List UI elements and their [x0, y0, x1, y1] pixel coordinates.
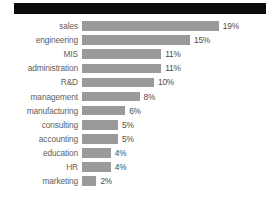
bar [82, 120, 118, 130]
bar [82, 21, 219, 31]
value-label: 4% [111, 148, 127, 158]
bar [82, 176, 96, 186]
value-label: 2% [96, 176, 112, 186]
bar-row: HR4% [0, 160, 274, 174]
bar-row: engineering15% [0, 33, 274, 47]
category-label: MIS [0, 49, 82, 59]
category-label: R&D [0, 77, 82, 87]
bar [82, 134, 118, 144]
bar [82, 49, 161, 59]
bar [82, 106, 125, 116]
bar [82, 162, 111, 172]
bar-track: 11% [82, 61, 274, 75]
bar-chart: sales19%engineering15%MIS11%administrati… [0, 0, 274, 214]
bar-track: 4% [82, 160, 274, 174]
bar-row: sales19% [0, 19, 274, 33]
bar-row: manufacturing6% [0, 104, 274, 118]
bar-row: accounting5% [0, 132, 274, 146]
bar-row: MIS11% [0, 47, 274, 61]
bar [82, 64, 161, 74]
plot-area: sales19%engineering15%MIS11%administrati… [0, 19, 274, 209]
bar-row: marketing2% [0, 174, 274, 188]
category-label: engineering [0, 35, 82, 45]
category-label: administration [0, 63, 82, 73]
bar-track: 19% [82, 19, 274, 33]
bar [82, 148, 111, 158]
bar-row: management8% [0, 89, 274, 103]
bar-track: 2% [82, 174, 274, 188]
bar-row: consulting5% [0, 118, 274, 132]
bar-row: education4% [0, 146, 274, 160]
value-label: 5% [118, 120, 134, 130]
bar-track: 11% [82, 47, 274, 61]
bar [82, 78, 154, 88]
bar [82, 35, 190, 45]
category-label: consulting [0, 120, 82, 130]
bar [82, 92, 140, 102]
bar-track: 5% [82, 132, 274, 146]
value-label: 10% [154, 77, 174, 87]
category-label: management [0, 92, 82, 102]
bar-track: 6% [82, 104, 274, 118]
category-label: manufacturing [0, 106, 82, 116]
redacted-title-bar [14, 3, 266, 14]
bar-track: 5% [82, 118, 274, 132]
category-label: education [0, 148, 82, 158]
value-label: 11% [161, 49, 180, 59]
bar-row: administration11% [0, 61, 274, 75]
bar-track: 8% [82, 89, 274, 103]
value-label: 19% [219, 21, 239, 31]
value-label: 5% [118, 134, 134, 144]
bar-track: 10% [82, 75, 274, 89]
value-label: 6% [125, 106, 141, 116]
value-label: 4% [111, 162, 127, 172]
value-label: 11% [161, 63, 180, 73]
category-label: sales [0, 21, 82, 31]
bar-track: 15% [82, 33, 274, 47]
category-label: HR [0, 162, 82, 172]
bar-row: R&D10% [0, 75, 274, 89]
value-label: 8% [140, 92, 156, 102]
bar-track: 4% [82, 146, 274, 160]
category-label: marketing [0, 176, 82, 186]
value-label: 15% [190, 35, 210, 45]
category-label: accounting [0, 134, 82, 144]
